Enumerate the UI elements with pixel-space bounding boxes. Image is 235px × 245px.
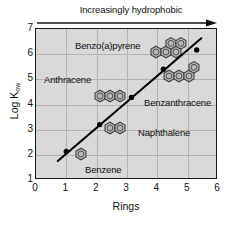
chart-figure: Increasingly hydrophobic	[0, 0, 235, 245]
x-tick-3: 3	[117, 182, 135, 193]
x-tick-5: 5	[178, 182, 196, 193]
y-axis-title: Log Kow	[8, 61, 20, 141]
naphthalene-structure	[105, 122, 125, 134]
x-tick-1: 1	[56, 182, 74, 193]
data-point-naphthalene	[97, 122, 102, 127]
y-axis-title-base: Log K	[8, 92, 20, 119]
data-point-benzene	[64, 149, 69, 154]
label-benzene: Benzene	[85, 164, 121, 175]
x-axis-ticks: 0 1 2 3 4 5 6	[35, 182, 217, 196]
anthracene-structure	[95, 90, 125, 102]
right-arrow-icon	[36, 18, 218, 28]
plot-area: Benzo(a)pyrene Anthracene Benzanthracene…	[35, 28, 217, 179]
label-benzanthracene: Benzanthracene	[144, 97, 211, 108]
y-tick-4: 4	[19, 99, 33, 109]
data-point-anthracene	[129, 95, 134, 100]
y-tick-7: 7	[19, 23, 33, 33]
benzene-structure	[76, 148, 86, 160]
y-tick-6: 6	[19, 48, 33, 58]
y-tick-5: 5	[19, 73, 33, 83]
x-tick-0: 0	[26, 182, 44, 193]
label-anthracene: Anthracene	[44, 74, 91, 85]
data-point-benzanthracene	[161, 67, 166, 72]
label-naphthalene: Naphthalene	[138, 127, 190, 138]
x-axis-title: Rings	[35, 200, 217, 212]
y-axis-title-subscript: ow	[14, 83, 21, 92]
x-tick-2: 2	[87, 182, 105, 193]
label-benzo-a-pyrene: Benzo(a)pyrene	[75, 40, 141, 51]
y-tick-2: 2	[19, 149, 33, 159]
x-tick-4: 4	[147, 182, 165, 193]
x-tick-6: 6	[208, 182, 226, 193]
data-point-benzo-a-pyrene	[194, 47, 199, 52]
y-tick-3: 3	[19, 124, 33, 134]
hydrophobicity-annotation: Increasingly hydrophobic	[36, 4, 226, 15]
